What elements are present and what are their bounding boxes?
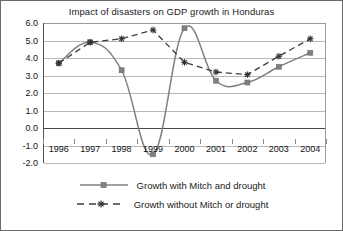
legend-label-with-mitch: Growth with Mitch and drought bbox=[137, 180, 266, 191]
series-line bbox=[59, 30, 311, 75]
x-tick-label: 2003 bbox=[269, 144, 289, 154]
x-axis-tick bbox=[295, 139, 296, 144]
y-tick-label: 3.0 bbox=[4, 71, 38, 81]
chart-title: Impact of disasters on GDP growth in Hon… bbox=[1, 6, 342, 17]
x-tick-label: 2002 bbox=[237, 144, 257, 154]
y-tick-label: 6.0 bbox=[4, 18, 38, 28]
data-point-marker bbox=[181, 59, 187, 65]
y-tick-label: 0.0 bbox=[4, 123, 38, 133]
x-axis-tick bbox=[169, 139, 170, 144]
chart-legend: Growth with Mitch and drought Growth wit… bbox=[1, 179, 342, 210]
series-with-mitch bbox=[56, 26, 313, 157]
x-axis-labels: 199619971998199920002001200220032004 bbox=[43, 144, 326, 160]
x-tick-label: 2001 bbox=[206, 144, 226, 154]
legend-item-with-mitch: Growth with Mitch and drought bbox=[78, 179, 266, 191]
data-point-marker bbox=[276, 53, 282, 59]
legend-label-without-mitch: Growth without Mitch or drought bbox=[134, 199, 269, 210]
legend-item-without-mitch: Growth without Mitch or drought bbox=[75, 198, 269, 210]
data-point-marker bbox=[118, 36, 124, 42]
x-axis-tick bbox=[326, 139, 327, 144]
y-tick-label: 2.0 bbox=[4, 88, 38, 98]
y-tick-label: -1.0 bbox=[4, 141, 38, 151]
data-point-marker bbox=[213, 78, 218, 83]
data-point-marker bbox=[245, 80, 250, 85]
data-point-marker bbox=[56, 60, 62, 66]
x-tick-label: 2000 bbox=[174, 144, 194, 154]
gridline--2 bbox=[44, 163, 325, 164]
data-point-marker bbox=[213, 69, 219, 75]
dashed-line-star-marker-icon bbox=[75, 198, 127, 210]
x-axis-tick bbox=[137, 139, 138, 144]
x-tick-label: 2004 bbox=[300, 144, 320, 154]
x-tick-label: 1999 bbox=[143, 144, 163, 154]
solid-line-square-marker-icon bbox=[78, 179, 130, 191]
x-tick-label: 1997 bbox=[80, 144, 100, 154]
chart-figure: Impact of disasters on GDP growth in Hon… bbox=[0, 0, 343, 231]
data-point-marker bbox=[307, 36, 313, 42]
x-axis-tick bbox=[232, 139, 233, 144]
y-tick-label: -2.0 bbox=[4, 158, 38, 168]
series-line bbox=[59, 26, 311, 155]
x-axis-tick bbox=[200, 139, 201, 144]
data-point-marker bbox=[244, 71, 250, 77]
x-tick-label: 1996 bbox=[49, 144, 69, 154]
x-axis-tick bbox=[43, 139, 44, 144]
x-axis-tick bbox=[74, 139, 75, 144]
x-tick-label: 1998 bbox=[112, 144, 132, 154]
data-point-marker bbox=[87, 39, 93, 45]
y-tick-label: 5.0 bbox=[4, 36, 38, 46]
y-tick-label: 4.0 bbox=[4, 53, 38, 63]
data-point-marker bbox=[182, 26, 187, 31]
y-tick-label: 1.0 bbox=[4, 106, 38, 116]
x-axis-tick bbox=[263, 139, 264, 144]
data-point-marker bbox=[276, 64, 281, 69]
x-axis-tick bbox=[106, 139, 107, 144]
series-without-mitch bbox=[56, 27, 314, 78]
chart-series-layer bbox=[43, 23, 326, 163]
data-point-marker bbox=[119, 68, 124, 73]
data-point-marker bbox=[308, 50, 313, 55]
data-point-marker bbox=[150, 27, 156, 33]
